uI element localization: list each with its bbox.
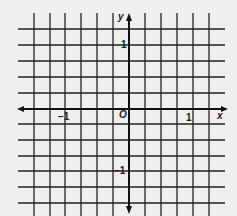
y-axis-up-arrow-icon bbox=[126, 13, 132, 21]
x-tick-label-pos: 1 bbox=[186, 112, 192, 123]
y-axis-label: y bbox=[118, 11, 124, 22]
x-axis-left-arrow-icon bbox=[17, 106, 24, 112]
y-tick-label-neg: −1 bbox=[114, 165, 125, 176]
x-tick-label-neg: −1 bbox=[58, 111, 69, 122]
x-axis-label: x bbox=[217, 110, 223, 121]
coordinate-grid bbox=[0, 0, 237, 216]
origin-label: O bbox=[119, 109, 127, 120]
y-axis-down-arrow-icon bbox=[126, 206, 132, 214]
y-tick-label-pos: 1 bbox=[121, 39, 127, 50]
